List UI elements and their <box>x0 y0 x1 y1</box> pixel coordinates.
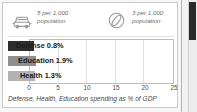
x-tick-25: 25 <box>170 84 177 91</box>
bar-row-health: Health 1.3% <box>8 69 174 84</box>
x-tick-15: 15 <box>112 84 119 91</box>
panel-edge <box>181 0 182 112</box>
x-tick-0: 0 <box>27 84 31 91</box>
plot-area: Defense 0.8% Education 1.9% Health 1.3% <box>8 39 174 84</box>
scrollbar-thumb[interactable] <box>189 2 196 40</box>
bar-label-education: Education 1.9% <box>18 56 73 66</box>
stat-text-cars: 5 per 1,000 population <box>37 9 101 24</box>
stat-line1: 5 per 1,000 <box>37 9 101 17</box>
bar-label-health: Health 1.3% <box>20 71 62 81</box>
chart-widget: 5 per 1,000 population 3 per 1,000 popul… <box>0 0 197 112</box>
bar-row-education: Education 1.9% <box>8 54 174 69</box>
x-axis-caption: Defense, Health, Education spending as %… <box>8 95 178 102</box>
x-tick-5: 5 <box>56 84 60 91</box>
stat-line2: population <box>37 17 101 25</box>
chart-card: 5 per 1,000 population 3 per 1,000 popul… <box>2 2 178 108</box>
divider <box>7 36 175 37</box>
bar-row-defense: Defense 0.8% <box>8 39 174 54</box>
x-tick-10: 10 <box>83 84 90 91</box>
bar-label-defense: Defense 0.8% <box>16 41 64 51</box>
phone-dial-icon <box>106 10 128 30</box>
x-tick-20: 20 <box>141 84 148 91</box>
x-axis: 0 5 10 15 20 25 <box>29 84 174 94</box>
car-icon <box>11 10 33 30</box>
stats-row: 5 per 1,000 population 3 per 1,000 popul… <box>7 7 175 35</box>
